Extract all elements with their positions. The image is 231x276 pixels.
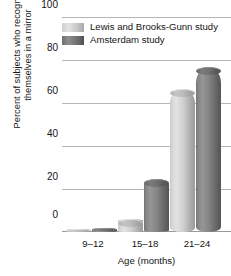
bar-amsterdam-9-12 — [92, 228, 117, 232]
y-tick-40: 40 — [28, 129, 58, 139]
y-tick-20: 20 — [28, 172, 58, 182]
bar-cap — [92, 228, 117, 231]
bar-chart: Percent of subjects who recognized thems… — [0, 0, 231, 276]
bar-series-container — [62, 17, 231, 232]
legend: Lewis and Brooks-Gunn study Amsterdam st… — [62, 22, 218, 45]
legend-swatch-icon-amsterdam — [62, 36, 84, 45]
bar-cap — [66, 229, 91, 232]
bar-lewis-9-12 — [66, 229, 91, 232]
bar-group-21-24 — [170, 17, 224, 232]
bar-cap — [196, 67, 221, 75]
bar-lewis-15-18 — [118, 219, 143, 232]
bar-cap — [170, 89, 195, 97]
bar-group-9-12 — [66, 17, 120, 232]
x-axis-tick-labels: 9–12 15–18 21–24 — [62, 238, 231, 250]
bar-amsterdam-15-18 — [144, 179, 169, 233]
y-tick-80: 80 — [28, 43, 58, 53]
y-axis-tick-labels: 100 80 60 40 20 0 — [26, 0, 58, 249]
legend-item-lewis: Lewis and Brooks-Gunn study — [62, 22, 218, 32]
legend-item-amsterdam: Amsterdam study — [62, 35, 218, 45]
plot-area — [62, 17, 231, 232]
bar-lewis-21-24 — [170, 89, 195, 232]
y-axis-title-line-1: Percent of subjects who recognized — [12, 0, 24, 128]
bar-cap — [144, 179, 169, 187]
y-tick-0: 0 — [28, 210, 58, 220]
bar-group-15-18 — [118, 17, 172, 232]
bar-cap — [118, 219, 143, 227]
x-tick-15-18: 15–18 — [122, 238, 168, 249]
legend-swatch-icon-lewis — [62, 23, 84, 32]
y-tick-100: 100 — [28, 0, 58, 10]
x-tick-21-24: 21–24 — [174, 238, 220, 249]
bar-amsterdam-21-24 — [196, 67, 221, 232]
legend-label-lewis: Lewis and Brooks-Gunn study — [90, 22, 218, 32]
x-axis-title: Age (months) — [62, 255, 231, 266]
legend-label-amsterdam: Amsterdam study — [90, 35, 165, 45]
y-tick-60: 60 — [28, 86, 58, 96]
x-tick-9-12: 9–12 — [70, 238, 116, 249]
